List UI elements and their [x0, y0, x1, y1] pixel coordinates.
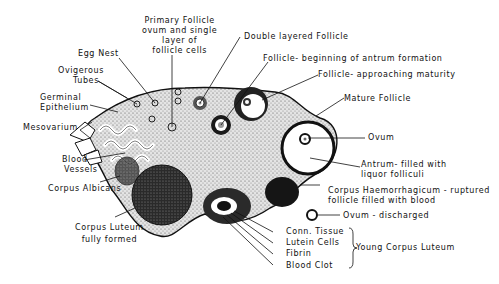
primary-follicle-line4: follicle cells: [142, 46, 217, 56]
label-ovigerous-tubes: Ovigerous Tubes: [58, 66, 104, 86]
corpus-luteum-line2: fully formed: [75, 235, 144, 245]
germinal-line1: Germinal: [40, 93, 89, 103]
label-corpus-luteum-formed: Corpus Luteum fully formed: [75, 223, 144, 245]
label-corpus-haemorrhagicum: Corpus Haemorrhagicum - ruptured follicl…: [328, 186, 490, 206]
primary-follicle-line2: ovum and single: [142, 26, 217, 36]
ovigerous-line2: Tubes: [58, 76, 104, 86]
label-mesovarium: Mesovarium: [23, 123, 78, 133]
antrum-line1: Antrum- filled with: [361, 160, 447, 170]
label-ovum: Ovum: [368, 133, 394, 143]
haemorrhagicum-line1: Corpus Haemorrhagicum - ruptured: [328, 186, 490, 196]
label-mature-follicle: Mature Follicle: [344, 94, 411, 104]
label-conn-tissue: Conn. Tissue: [286, 227, 344, 237]
young-corpus-luteum-drawing: [203, 188, 251, 224]
corpus-luteum-drawing: [132, 165, 192, 225]
germinal-line2: Epithelium: [40, 103, 89, 113]
primary-follicle-line3: layer of: [142, 36, 217, 46]
label-follicle-antrum: Follicle- beginning of antrum formation: [263, 54, 443, 64]
blood-vessels-line2: Vessels: [62, 165, 98, 175]
label-germinal-epithelium: Germinal Epithelium: [40, 93, 89, 113]
label-double-layered-follicle: Double layered Follicle: [244, 32, 349, 42]
label-ovum-discharged: Ovum - discharged: [343, 211, 429, 221]
corpus-luteum-line1: Corpus Luteum: [75, 223, 144, 233]
primary-follicle-line1: Primary Follicle: [142, 16, 217, 26]
label-blood-clot: Blood Clot: [286, 261, 333, 271]
label-corpus-albicans: Corpus Albicans: [48, 184, 121, 194]
label-primary-follicle: Primary Follicle ovum and single layer o…: [142, 16, 217, 56]
label-lutein-cells: Lutein Cells: [286, 238, 340, 248]
label-blood-vessels: Blood Vessels: [62, 155, 98, 175]
mature-follicle-drawing: [282, 122, 334, 174]
haemorrhagicum-line2: follicle filled with blood: [328, 196, 490, 206]
blood-vessels-line1: Blood: [62, 155, 98, 165]
label-antrum: Antrum- filled with liquor folliculi: [361, 160, 447, 180]
label-egg-nest: Egg Nest: [78, 49, 119, 59]
label-follicle-approaching: Follicle- approaching maturity: [318, 70, 456, 80]
label-young-corpus-luteum: Young Corpus Luteum: [356, 243, 455, 253]
label-fibrin: Fibrin: [286, 249, 312, 259]
ovigerous-line1: Ovigerous: [58, 66, 104, 76]
corpus-haemorrhagicum-drawing: [265, 177, 299, 207]
approaching-maturity-follicle-drawing: [234, 87, 268, 121]
antrum-line2: liquor folliculi: [361, 170, 447, 180]
